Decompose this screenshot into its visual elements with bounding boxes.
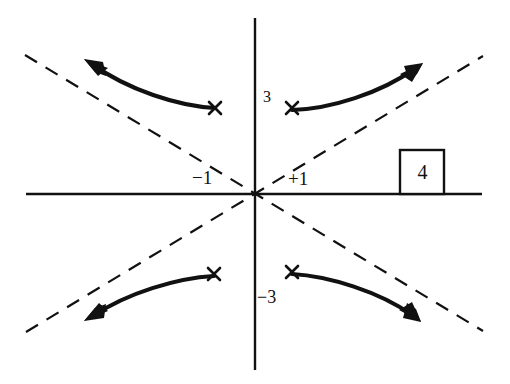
- arrowhead-upper-left-fill: [84, 59, 106, 76]
- branch-lower-left-curve: [93, 276, 214, 316]
- arrowhead-group: [84, 59, 423, 322]
- branch-group: [92, 64, 414, 316]
- figure-canvas: −1 +1 3 −3 4: [0, 0, 510, 384]
- marker-lower-right: [286, 266, 298, 278]
- numbered-box-label: 4: [400, 150, 445, 195]
- branch-upper-left-curve: [92, 64, 215, 108]
- marker-group: [208, 102, 298, 280]
- branch-upper-right-curve: [292, 69, 414, 110]
- axis-label-negative-three: −3: [257, 288, 276, 306]
- axis-label-positive-three: 3: [263, 89, 271, 105]
- branch-lower-right-curve: [292, 274, 412, 315]
- axis-label-negative-one: −1: [192, 168, 212, 187]
- axis-label-positive-one: +1: [288, 169, 308, 188]
- marker-lower-left: [208, 268, 220, 280]
- arrowhead-lower-left-fill: [84, 304, 106, 321]
